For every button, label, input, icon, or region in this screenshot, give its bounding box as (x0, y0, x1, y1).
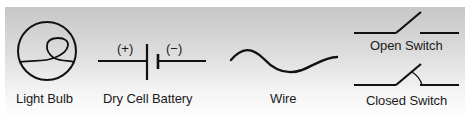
open-switch-icon (352, 10, 462, 38)
light-bulb-label: Light Bulb (16, 91, 73, 106)
closed-switch-label: Closed Switch (366, 93, 447, 108)
light-bulb-icon (14, 18, 80, 84)
battery-label: Dry Cell Battery (103, 91, 192, 106)
wire-label: Wire (270, 91, 296, 106)
closed-switch-icon (352, 62, 462, 90)
battery-icon (98, 40, 218, 85)
open-switch-label: Open Switch (370, 38, 443, 53)
wire-icon (230, 45, 340, 80)
